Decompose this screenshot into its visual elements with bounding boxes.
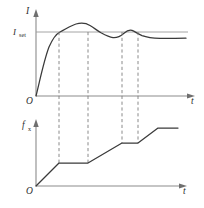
bottom-y-axis-label-subscript: x <box>28 125 32 132</box>
bottom-y-axis-label: f x <box>22 120 32 132</box>
bottom-y-axis-arrowhead <box>33 119 38 127</box>
figure-container: I t O I set f <box>0 0 204 208</box>
bottom-panel-group: f x t O <box>22 119 187 196</box>
dual-panel-plot: I t O I set f <box>0 0 204 208</box>
top-y-axis-arrowhead <box>33 9 38 17</box>
bottom-x-axis-label: t <box>183 186 186 196</box>
top-y-axis-label: I <box>25 6 30 16</box>
frequency-staircase-curve <box>36 128 178 186</box>
top-origin-label: O <box>26 96 33 106</box>
bottom-y-axis-label-main: f <box>22 120 26 130</box>
bottom-origin-label: O <box>26 186 33 196</box>
top-x-axis-label: t <box>191 96 194 106</box>
setpoint-label-main: I <box>12 27 17 37</box>
setpoint-label-subscript: set <box>19 31 26 38</box>
current-response-curve <box>36 23 186 96</box>
setpoint-label: I set <box>12 27 26 38</box>
top-panel-group: I t O I set <box>12 6 195 106</box>
